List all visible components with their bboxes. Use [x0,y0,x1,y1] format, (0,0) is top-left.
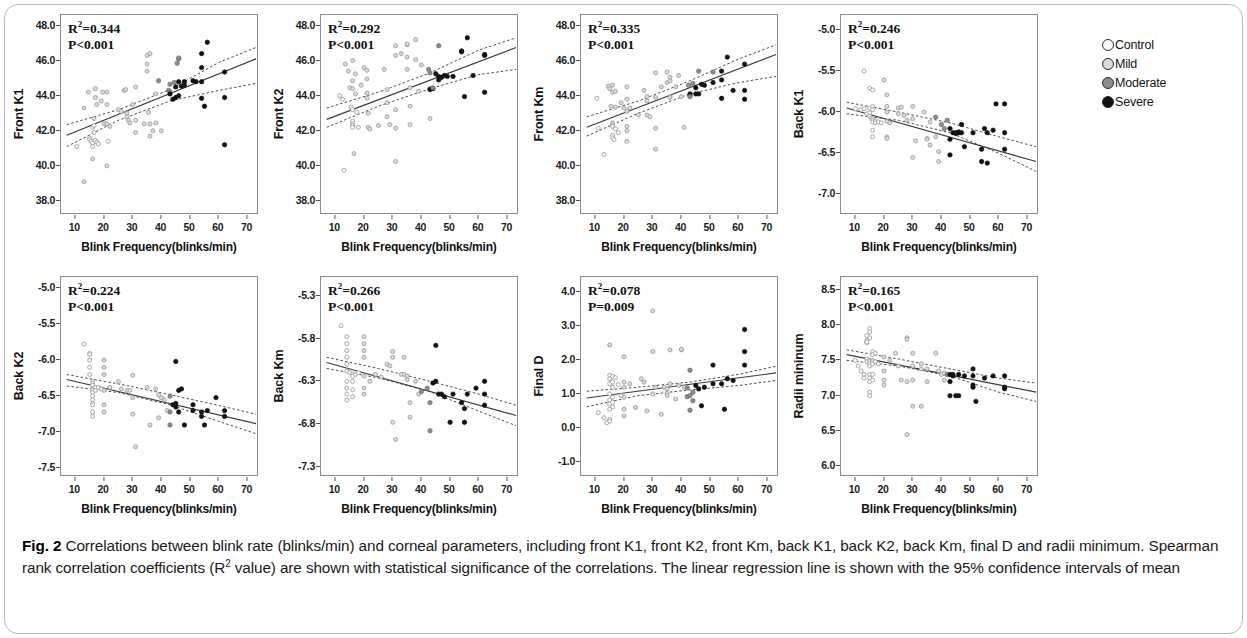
x-tick-label: 70 [241,221,252,233]
data-point [862,69,866,73]
x-tick-label: 10 [329,483,340,495]
x-tick-label: 40 [155,483,166,495]
data-point [199,96,203,100]
r-squared-value: =0.078 [602,283,640,298]
data-point [959,131,963,135]
data-point [105,164,109,168]
plot-grid: Front K148.046.044.042.040.038.0R2=0.344… [14,8,1054,520]
data-point [362,349,366,353]
x-tick-label: 50 [184,483,195,495]
data-point [199,51,203,55]
x-tick-label: 20 [617,221,628,233]
panel-final-d: Final D4.03.02.01.00.0-1.0R2=0.078P=0.00… [534,270,789,518]
data-point [382,67,386,71]
data-point [222,143,226,147]
data-point [711,363,715,367]
p-value-label: P<0.001 [848,299,900,315]
data-point [596,126,600,130]
x-tick-label: 20 [357,483,368,495]
data-point [742,349,746,353]
data-point [853,107,857,111]
data-point [939,122,943,126]
data-point [405,55,409,59]
statistics-annotation: R2=0.335P<0.001 [588,19,640,53]
data-point [417,89,421,93]
data-point [934,115,938,119]
data-point [134,131,138,135]
data-point [611,385,615,389]
data-point [222,414,226,418]
data-point [154,121,158,125]
data-point [385,88,389,92]
data-point [911,378,915,382]
data-point [722,407,726,411]
data-point [362,335,366,339]
data-point [394,53,398,57]
data-point [682,125,686,129]
data-point [962,145,966,149]
data-point [199,80,203,84]
data-point [911,117,915,121]
y-axis-ticks: -5.0-5.5-6.0-6.5-7.0 [794,8,840,258]
data-point [896,112,900,116]
r-squared-symbol: R [588,21,598,36]
data-point [991,128,995,132]
r-squared-symbol: R [588,283,598,298]
data-point [742,97,746,101]
data-point [182,423,186,427]
statistics-annotation: R2=0.266P<0.001 [328,281,380,315]
y-tick-label: 6.5 [821,424,835,436]
y-axis-ticks: -5.0-5.5-6.0-6.5-7.0-7.5 [14,270,60,518]
data-point [174,85,178,89]
data-point [345,355,349,359]
x-axis-ticks: 10203040506070 [580,215,778,233]
data-point [408,104,412,108]
data-point [971,374,975,378]
y-tick-label: -5.0 [818,23,835,35]
data-point [428,71,432,75]
x-axis-ticks: 10203040506070 [580,477,778,495]
x-tick-label: 60 [212,221,223,233]
data-point [871,88,875,92]
data-point [119,387,123,391]
data-point [911,104,915,108]
data-point [191,403,195,407]
legend-label: Mild [1115,57,1137,71]
data-point [905,337,909,341]
figure-label: Fig. 2 [22,537,61,554]
data-point [613,105,617,109]
data-point [979,147,983,151]
x-tick-label: 20 [97,221,108,233]
data-point [151,129,155,133]
y-tick-label: -6.0 [818,105,835,117]
data-point [645,95,649,99]
y-tick-label: 4.0 [561,285,575,297]
x-tick-label: 70 [761,221,772,233]
data-point [174,405,178,409]
data-point [202,423,206,427]
r-squared-value: =0.246 [862,21,900,36]
data-point [154,92,158,96]
plot-area-front-km: R2=0.335P<0.001 [580,14,778,214]
data-point [414,58,418,62]
data-point [628,106,632,110]
data-point [145,69,149,73]
y-tick-label: 42.0 [556,124,575,136]
y-tick-label: -6.8 [298,417,315,429]
data-point [674,85,678,89]
panel-radii-mininum: Radii mininum8.58.07.57.06.56.0R2=0.165P… [794,270,1049,518]
x-tick-label: 60 [732,221,743,233]
x-tick-label: 60 [212,483,223,495]
y-tick-label: 46.0 [556,54,575,66]
data-point [362,342,366,346]
data-point [91,410,95,414]
data-point [962,374,966,378]
data-point [642,380,646,384]
legend-label: Moderate [1115,76,1166,90]
data-point [1002,131,1006,135]
y-tick-label: 48.0 [36,19,55,31]
x-axis-ticks: 10203040506070 [60,215,258,233]
r-squared-label: R2=0.335 [588,19,640,37]
data-point [925,137,929,141]
data-point [402,355,406,359]
